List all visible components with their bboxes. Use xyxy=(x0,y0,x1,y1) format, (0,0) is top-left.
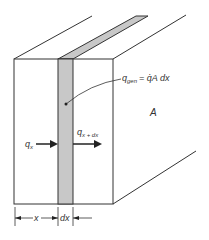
dim-x-label: x xyxy=(33,213,39,223)
control-volume-diagram: qgen= q̇A dx A qx qx + dx x dx xyxy=(0,0,209,240)
q-gen-label: qgen= q̇A dx xyxy=(122,73,170,84)
dim-arrow-x-right xyxy=(52,216,58,220)
q-gen-point xyxy=(65,103,68,106)
top-right-edge xyxy=(113,15,186,59)
area-label: A xyxy=(149,107,157,118)
dim-dx-label: dx xyxy=(60,213,70,223)
dim-arrow-dx xyxy=(73,216,79,220)
bottom-right-edge xyxy=(113,151,196,204)
dim-arrow-left xyxy=(15,216,21,220)
strip-top-face xyxy=(58,16,148,59)
differential-element-strip xyxy=(58,59,73,204)
